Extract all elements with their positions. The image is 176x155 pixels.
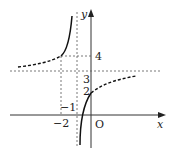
origin-label: O [95, 119, 104, 130]
y-axis-label: y [81, 9, 87, 20]
tick-label-y3: 3 [83, 74, 90, 85]
tick-label-y2: 2 [83, 86, 90, 97]
tick-label-x-neg1: −1 [60, 102, 76, 113]
x-axis-label: x [157, 119, 163, 130]
right-branch-dashed [91, 76, 136, 93]
tick-label-y4: 4 [95, 51, 102, 62]
right-branch-solid [80, 93, 91, 145]
tick-label-x-neg2: −2 [53, 118, 69, 129]
left-branch-dashed [18, 56, 61, 67]
left-branch-solid [61, 16, 72, 56]
y-axis-arrow-icon [88, 9, 94, 17]
